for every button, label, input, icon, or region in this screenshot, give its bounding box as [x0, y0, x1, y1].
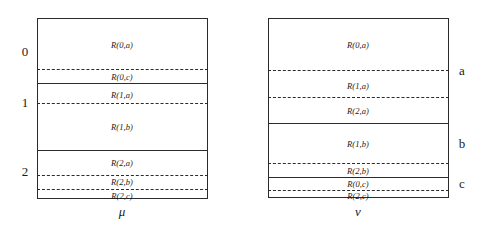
- region-label: R(2,b): [347, 167, 369, 176]
- region-label: R(0,a): [111, 41, 133, 50]
- region-label: R(1,a): [347, 82, 369, 91]
- region-label: R(0,c): [347, 180, 369, 189]
- region-label: R(0,c): [111, 73, 133, 82]
- region-label: R(2,c): [111, 192, 133, 201]
- panel-nu-dashed-line: [268, 163, 449, 164]
- panel-nu-index-label: a: [459, 64, 465, 77]
- region-label: R(1,b): [111, 123, 133, 132]
- panel-nu-dashed-line: [268, 97, 449, 98]
- panel-mu-solid-line: [37, 150, 208, 151]
- panel-mu-axis-label: μ: [119, 205, 126, 218]
- panel-mu-index-label: 1: [22, 96, 29, 109]
- panel-mu-index-label: 0: [22, 45, 29, 58]
- region-label: R(2,a): [111, 159, 133, 168]
- region-label: R(1,b): [347, 140, 369, 149]
- panel-nu-solid-line: [268, 123, 449, 124]
- panel-mu-dashed-line: [37, 103, 208, 104]
- region-label: R(2,a): [347, 107, 369, 116]
- panel-mu-solid-line: [37, 83, 208, 84]
- region-label: R(2,b): [111, 178, 133, 187]
- panel-nu-dashed-line: [268, 70, 449, 71]
- panel-mu-index-label: 2: [22, 165, 29, 178]
- panel-nu-index-label: c: [459, 177, 465, 190]
- region-label: R(0,a): [347, 41, 369, 50]
- panel-nu-axis-label: ν: [355, 205, 361, 218]
- region-label: R(2,c): [347, 192, 369, 201]
- panel-mu-dashed-line: [37, 69, 208, 70]
- figure-canvas: R(0,a) R(0,c) R(1,a) R(1,b) R(2,a) R(2,b…: [0, 0, 483, 230]
- region-label: R(1,a): [111, 91, 133, 100]
- panel-nu-index-label: b: [459, 137, 466, 150]
